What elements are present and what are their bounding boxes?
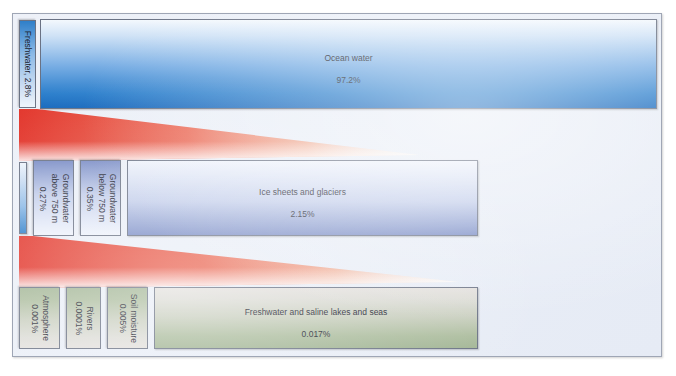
ocean-water-value: 97.2% xyxy=(336,75,360,85)
bar-segment-ice-sheets-glaciers: Ice sheets and glaciers 2.15% xyxy=(127,160,478,236)
bar-label-groundwater-above-750m: Groundwater above 750 m 0.27% xyxy=(36,173,70,222)
funnel-wedge-bottom xyxy=(19,236,459,288)
bar-label-lakes-and-seas: Freshwater and saline lakes and seas 0.0… xyxy=(245,295,388,341)
bar-segment-freshwater-sliver xyxy=(19,162,27,234)
bar-segment-groundwater-above-750m: Groundwater above 750 m 0.27% xyxy=(33,160,74,236)
bar-label-rivers: Rivers 0.0001% xyxy=(72,301,95,335)
soil-value: 0.005% xyxy=(118,304,128,333)
bar-segment-lakes-and-seas: Freshwater and saline lakes and seas 0.0… xyxy=(154,287,478,349)
bar-segment-soil-moisture: Soil moisture 0.005% xyxy=(107,287,148,349)
bar-segment-atmosphere: Atmosphere 0.001% xyxy=(19,287,60,349)
ice-name: Ice sheets and glaciers xyxy=(259,187,346,197)
bar-label-freshwater-total: Freshwater, 2.8% xyxy=(22,31,33,97)
funnel-wedge-bottom-shape xyxy=(19,236,459,288)
bar-segment-groundwater-below-750m: Groundwater below 750 m 0.35% xyxy=(80,160,121,236)
bar-segment-rivers: Rivers 0.0001% xyxy=(66,287,101,349)
gw-above-value: 0.27% xyxy=(38,186,48,210)
funnel-wedge-top xyxy=(19,109,419,161)
bar-label-atmosphere: Atmosphere 0.001% xyxy=(28,295,51,341)
figure-frame: Freshwater, 2.8% Ocean water 97.2% xyxy=(12,13,662,357)
ice-value: 2.15% xyxy=(290,209,314,219)
lakes-value: 0.017% xyxy=(302,329,331,339)
bar-label-soil-moisture: Soil moisture 0.005% xyxy=(116,293,139,342)
atmosphere-value: 0.001% xyxy=(30,304,40,333)
bar-segment-ocean-water: Ocean water 97.2% xyxy=(40,19,657,109)
bar-label-ocean-water: Ocean water 97.2% xyxy=(324,41,372,87)
lakes-name: Freshwater and saline lakes and seas xyxy=(245,307,388,317)
bar-label-ice-sheets-glaciers: Ice sheets and glaciers 2.15% xyxy=(259,175,346,221)
funnel-wedge-top-shape xyxy=(19,109,419,161)
gw-below-value: 0.35% xyxy=(85,186,95,210)
figure-canvas: Freshwater, 2.8% Ocean water 97.2% xyxy=(0,0,676,376)
rivers-value: 0.0001% xyxy=(74,301,84,335)
soil-name: Soil moisture xyxy=(129,293,139,342)
atmosphere-name: Atmosphere xyxy=(41,295,51,341)
rivers-name: Rivers xyxy=(85,306,95,330)
bar-label-groundwater-below-750m: Groundwater below 750 m 0.35% xyxy=(83,173,117,222)
bar-segment-freshwater-total: Freshwater, 2.8% xyxy=(19,20,36,108)
gw-below-name: Groundwater below 750 m xyxy=(96,173,117,222)
gw-above-name: Groundwater above 750 m xyxy=(49,173,70,222)
ocean-water-name: Ocean water xyxy=(324,53,372,63)
